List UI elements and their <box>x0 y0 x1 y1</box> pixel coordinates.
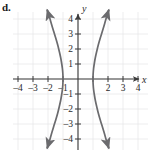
curve-arrowhead <box>107 142 109 148</box>
x-axis-label: x <box>141 74 147 85</box>
y-axis-label: y <box>81 3 87 14</box>
hyperbola-plot: –4–3–2–12344321–1–2–3–4 x y <box>0 0 156 155</box>
y-tick-label: –3 <box>63 119 74 129</box>
x-tick-label: 4 <box>136 83 141 93</box>
x-tick-label: 3 <box>121 83 126 93</box>
y-tick-label: –4 <box>63 134 74 144</box>
curve-arrowhead <box>47 10 49 16</box>
graph-figure: d. –4–3–2–12344321–1–2–3–4 x y <box>0 0 156 155</box>
x-tick-label: –4 <box>12 83 23 93</box>
curve-arrowhead <box>47 142 49 148</box>
x-tick-label: 2 <box>106 83 111 93</box>
y-tick-label: –2 <box>63 104 74 114</box>
y-tick-label: 1 <box>68 59 73 69</box>
curve-arrowhead <box>107 10 109 16</box>
y-tick-label: 2 <box>68 44 73 54</box>
x-tick-label: –2 <box>42 83 53 93</box>
x-tick-label: –3 <box>27 83 38 93</box>
y-tick-label: –1 <box>63 89 74 99</box>
part-label: d. <box>2 1 11 13</box>
y-tick-label: 4 <box>68 14 73 24</box>
y-tick-label: 3 <box>68 29 73 39</box>
